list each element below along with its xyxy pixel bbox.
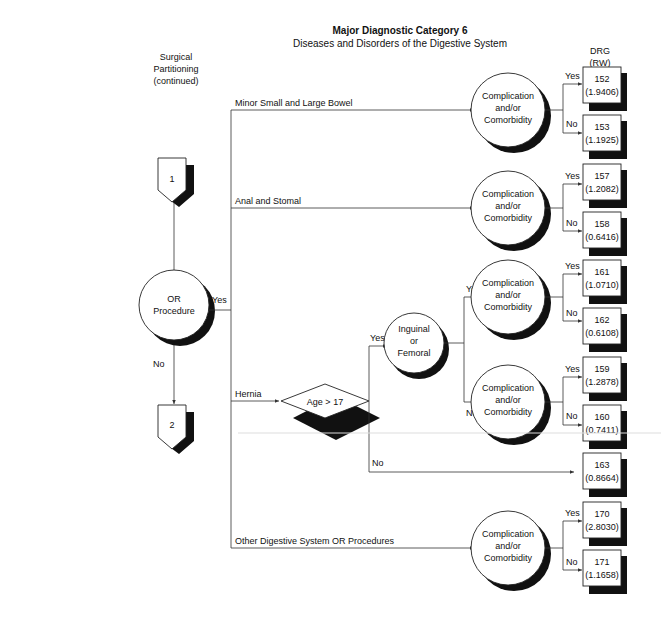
svg-text:DRG: DRG — [590, 46, 610, 56]
drg-box-162: 162 (0.6108) — [583, 308, 627, 352]
svg-text:(1.1658): (1.1658) — [585, 570, 619, 580]
connector-1: 1 — [158, 158, 194, 207]
decision-inguinal-femoral: Inguinal or Femoral — [384, 313, 449, 379]
label-cc4-yes: Yes — [565, 364, 580, 374]
svg-text:Partitioning: Partitioning — [153, 64, 198, 74]
svg-text:157: 157 — [594, 171, 609, 181]
connector-2: 2 — [158, 405, 194, 454]
svg-text:(1.2878): (1.2878) — [585, 377, 619, 387]
diagram-title: Major Diagnostic Category 6 — [332, 25, 467, 36]
svg-text:and/or: and/or — [495, 395, 521, 405]
drg-box-171: 171 (1.1658) — [583, 550, 627, 594]
label-or-yes: Yes — [212, 295, 227, 305]
drg-box-157: 157 (1.2082) — [583, 164, 627, 208]
svg-text:159: 159 — [594, 364, 609, 374]
label-cc1-yes: Yes — [565, 71, 580, 81]
svg-text:Procedure: Procedure — [153, 306, 195, 316]
svg-text:(1.0710): (1.0710) — [585, 280, 619, 290]
svg-text:(2.8030): (2.8030) — [585, 522, 619, 532]
svg-text:153: 153 — [594, 122, 609, 132]
label-or-no: No — [153, 359, 165, 369]
svg-text:(0.6416): (0.6416) — [585, 232, 619, 242]
branch-hernia: Hernia — [235, 389, 262, 399]
svg-text:152: 152 — [594, 74, 609, 84]
svg-text:and/or: and/or — [495, 201, 521, 211]
svg-text:160: 160 — [594, 412, 609, 422]
svg-text:(continued): (continued) — [153, 76, 198, 86]
decision-cc-2: Complication and/or Comorbidity — [471, 171, 551, 251]
svg-text:162: 162 — [594, 315, 609, 325]
drg-box-170: 170 (2.8030) — [583, 502, 627, 546]
drg-column-header: DRG (RW) — [590, 46, 611, 68]
section-label: Surgical Partitioning (continued) — [153, 52, 198, 86]
label-cc2-yes: Yes — [565, 171, 580, 181]
decision-or-procedure: OR Procedure — [139, 270, 215, 346]
svg-text:Age > 17: Age > 17 — [307, 397, 343, 407]
svg-text:163: 163 — [594, 460, 609, 470]
branch-anal-stomal: Anal and Stomal — [235, 196, 301, 206]
decision-cc-3: Complication and/or Comorbidity — [471, 260, 551, 340]
drg-box-152: 152 (1.9406) — [583, 67, 627, 111]
svg-text:and/or: and/or — [495, 541, 521, 551]
decision-age: Age > 17 — [281, 384, 380, 440]
flowchart-canvas: Major Diagnostic Category 6 Diseases and… — [0, 0, 661, 628]
label-cc5-yes: Yes — [565, 508, 580, 518]
svg-text:Complication: Complication — [482, 91, 534, 101]
drg-box-159: 159 (1.2878) — [583, 357, 627, 401]
svg-text:(1.2082): (1.2082) — [585, 184, 619, 194]
label-cc4-no: No — [566, 411, 578, 421]
branch-minor-bowel: Minor Small and Large Bowel — [235, 98, 353, 108]
label-cc1-no: No — [566, 119, 578, 129]
svg-text:Comorbidity: Comorbidity — [484, 213, 533, 223]
svg-text:(1.1925): (1.1925) — [585, 135, 619, 145]
svg-text:Complication: Complication — [482, 529, 534, 539]
branch-other: Other Digestive System OR Procedures — [235, 536, 395, 546]
label-cc5-no: No — [566, 557, 578, 567]
svg-text:1: 1 — [169, 174, 174, 184]
svg-text:Comorbidity: Comorbidity — [484, 302, 533, 312]
svg-text:Comorbidity: Comorbidity — [484, 407, 533, 417]
svg-text:(RW): (RW) — [590, 58, 611, 68]
decision-cc-1: Complication and/or Comorbidity — [471, 73, 551, 153]
svg-text:Surgical: Surgical — [160, 52, 193, 62]
drg-box-160: 160 (0.7411) — [583, 405, 627, 449]
diagram-subtitle: Diseases and Disorders of the Digestive … — [293, 38, 507, 49]
svg-text:Complication: Complication — [482, 383, 534, 393]
svg-text:171: 171 — [594, 557, 609, 567]
label-age-no: No — [372, 458, 384, 468]
drg-box-158: 158 (0.6416) — [583, 212, 627, 256]
svg-text:Comorbidity: Comorbidity — [484, 553, 533, 563]
svg-text:(0.6108): (0.6108) — [585, 328, 619, 338]
svg-text:Femoral: Femoral — [397, 348, 430, 358]
label-age-yes: Yes — [370, 333, 385, 343]
label-cc3-no: No — [566, 308, 578, 318]
label-cc3-yes: Yes — [565, 261, 580, 271]
svg-text:(0.8664): (0.8664) — [585, 473, 619, 483]
svg-text:2: 2 — [169, 420, 174, 430]
svg-text:170: 170 — [594, 509, 609, 519]
svg-text:Comorbidity: Comorbidity — [484, 115, 533, 125]
drg-box-161: 161 (1.0710) — [583, 260, 627, 304]
svg-text:or: or — [410, 336, 418, 346]
svg-text:(1.9406): (1.9406) — [585, 87, 619, 97]
svg-text:Inguinal: Inguinal — [398, 324, 430, 334]
svg-text:161: 161 — [594, 267, 609, 277]
drg-box-163: 163 (0.8664) — [583, 453, 627, 497]
svg-text:and/or: and/or — [495, 103, 521, 113]
label-cc2-no: No — [566, 218, 578, 228]
svg-text:Complication: Complication — [482, 189, 534, 199]
drg-box-153: 153 (1.1925) — [583, 115, 627, 159]
svg-text:OR: OR — [167, 294, 181, 304]
svg-text:and/or: and/or — [495, 290, 521, 300]
svg-text:Complication: Complication — [482, 278, 534, 288]
decision-cc-5: Complication and/or Comorbidity — [471, 511, 551, 591]
svg-text:158: 158 — [594, 219, 609, 229]
